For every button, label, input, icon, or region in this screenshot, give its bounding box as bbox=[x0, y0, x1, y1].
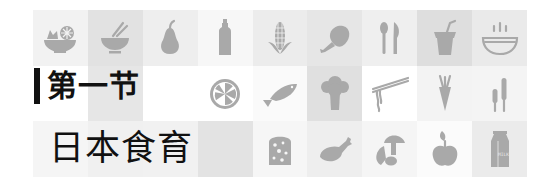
milk-carton-icon: MILK bbox=[480, 129, 520, 169]
broccoli-icon bbox=[315, 73, 355, 113]
roast-chicken-icon bbox=[315, 18, 355, 58]
section-marker-bar bbox=[34, 68, 40, 104]
tile-r2-c3 bbox=[198, 121, 253, 177]
wheat-icon bbox=[480, 73, 520, 113]
noodles-chopsticks-icon bbox=[370, 73, 410, 113]
lemon-slice-icon bbox=[205, 73, 245, 113]
carrot-icon bbox=[425, 73, 465, 113]
tile-r0-c6 bbox=[362, 10, 417, 66]
tile-r0-c8 bbox=[472, 10, 527, 66]
tile-r0-c0 bbox=[33, 10, 88, 66]
chicken-leg-icon bbox=[315, 129, 355, 169]
mushrooms-icon bbox=[370, 129, 410, 169]
apple-icon bbox=[425, 129, 465, 169]
tile-r1-c5 bbox=[307, 66, 362, 122]
section-heading: 第一节 bbox=[34, 66, 140, 106]
pear-icon bbox=[150, 18, 190, 58]
tile-r0-c3 bbox=[198, 10, 253, 66]
tile-r0-c7 bbox=[417, 10, 472, 66]
tile-r0-c2 bbox=[143, 10, 198, 66]
tile-r1-c7 bbox=[417, 66, 472, 122]
tile-r1-c3 bbox=[198, 66, 253, 122]
bottle-icon bbox=[205, 18, 245, 58]
tile-r2-c6 bbox=[362, 121, 417, 177]
corn-icon bbox=[260, 18, 300, 58]
tile-r2-c4 bbox=[253, 121, 308, 177]
salad-bowl-icon bbox=[40, 18, 80, 58]
tile-r0-c1 bbox=[88, 10, 143, 66]
tile-r0-c5 bbox=[307, 10, 362, 66]
milk-label: MILK bbox=[498, 152, 509, 157]
spoon-knife-icon bbox=[370, 18, 410, 58]
drink-cup-straw-icon bbox=[425, 18, 465, 58]
steaming-bowl-icon bbox=[480, 18, 520, 58]
tile-r1-c4 bbox=[253, 66, 308, 122]
section-label-text: 第一节 bbox=[47, 71, 140, 101]
tile-r0-c4 bbox=[253, 10, 308, 66]
chapter-title: 日本食育 bbox=[49, 131, 193, 166]
rice-bowl-chopsticks-icon bbox=[95, 18, 135, 58]
tile-r2-c7 bbox=[417, 121, 472, 177]
tile-r1-c6 bbox=[362, 66, 417, 122]
bread-slice-icon bbox=[260, 129, 300, 169]
tile-r2-c5 bbox=[307, 121, 362, 177]
tile-r2-c8: MILK bbox=[472, 121, 527, 177]
tile-r1-c8 bbox=[472, 66, 527, 122]
fish-icon bbox=[260, 73, 300, 113]
tile-r1-c2 bbox=[143, 66, 198, 122]
